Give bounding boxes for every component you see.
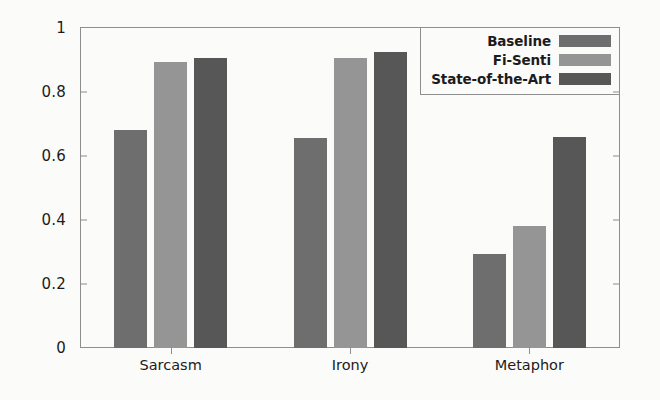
bar	[473, 254, 506, 348]
x-axis-tick-mark	[350, 348, 351, 354]
bar	[294, 138, 327, 348]
y-axis-tick-label: 1	[0, 19, 66, 37]
legend-item-label: State-of-the-Art	[431, 71, 551, 87]
x-axis-tick-label: Irony	[332, 357, 369, 373]
bar	[374, 52, 407, 348]
bar	[553, 137, 586, 348]
legend-item-label: Fi-Senti	[493, 52, 551, 68]
legend: BaselineFi-SentiState-of-the-Art	[420, 27, 620, 95]
legend-color-swatch	[559, 73, 611, 85]
y-axis-tick-label: 0.4	[0, 211, 66, 229]
bar	[334, 58, 367, 348]
x-axis-tick-mark	[171, 348, 172, 354]
y-axis-tick-label: 0	[0, 339, 66, 357]
bar-chart-figure: 00.20.40.60.81 SarcasmIronyMetaphor Base…	[0, 0, 660, 400]
legend-item: State-of-the-Art	[431, 71, 611, 87]
legend-color-swatch	[559, 35, 611, 47]
legend-color-swatch	[559, 54, 611, 66]
bar	[154, 62, 187, 348]
bar	[114, 130, 147, 348]
x-axis-tick-label: Metaphor	[495, 357, 564, 373]
x-axis-tick-mark	[529, 348, 530, 354]
y-axis-tick-label: 0.8	[0, 83, 66, 101]
legend-item: Baseline	[487, 33, 611, 49]
bar	[513, 226, 546, 348]
bar	[194, 58, 227, 348]
legend-item: Fi-Senti	[493, 52, 611, 68]
legend-item-label: Baseline	[487, 33, 551, 49]
y-axis-tick-label: 0.6	[0, 147, 66, 165]
y-axis-tick-label: 0.2	[0, 275, 66, 293]
x-axis-tick-label: Sarcasm	[140, 357, 202, 373]
